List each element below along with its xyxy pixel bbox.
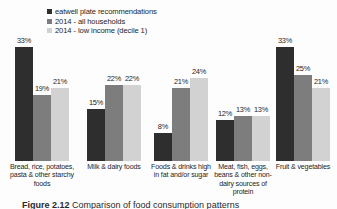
bar-rect[interactable] <box>252 116 270 161</box>
bar-item[interactable]: 21% <box>172 0 190 161</box>
bar-value-label: 33% <box>278 37 292 46</box>
figure-caption-text: Figure 2.12 Comparison of food consumpti… <box>22 200 332 209</box>
bar-value-label: 13% <box>236 106 250 115</box>
bar-rect[interactable] <box>123 85 141 161</box>
bar-rect[interactable] <box>154 133 172 161</box>
bar-rect[interactable] <box>312 88 330 161</box>
legend-swatch-icon <box>47 19 52 24</box>
bar-value-label: 33% <box>17 37 31 46</box>
bar-item[interactable]: 13% <box>252 0 270 161</box>
bar-item[interactable]: 12% <box>216 0 234 161</box>
category-axis-label: Bread, rice, potatoes, pasta & other sta… <box>6 163 78 188</box>
bar-rect[interactable] <box>234 116 252 161</box>
legend-swatch-icon <box>47 28 52 33</box>
bar-rect[interactable] <box>190 78 208 161</box>
legend-item-label: 2014 - all households <box>55 17 125 27</box>
bar-item[interactable]: 33% <box>15 0 33 161</box>
figure-caption-body: Comparison of food consumption patterns <box>72 200 239 209</box>
figure-container: 33%19%21%15%22%22%8%21%24%12%13%13%33%25… <box>0 0 337 209</box>
bar-value-label: 21% <box>314 78 328 87</box>
bar-value-label: 24% <box>192 68 206 77</box>
figure-caption-number: Figure 2.12 <box>22 200 70 209</box>
bar-rect[interactable] <box>87 109 105 161</box>
bar-value-label: 25% <box>296 65 310 74</box>
bar-item[interactable]: 24% <box>190 0 208 161</box>
legend-item[interactable]: 2014 - all households <box>47 17 157 27</box>
bar-rect[interactable] <box>33 95 51 161</box>
bar-item[interactable]: 25% <box>294 0 312 161</box>
bar-value-label: 22% <box>125 75 139 84</box>
bar-value-label: 8% <box>158 123 168 132</box>
bar-rect[interactable] <box>105 85 123 161</box>
bar-rect[interactable] <box>216 120 234 161</box>
bar-value-label: 13% <box>254 106 268 115</box>
legend-item[interactable]: 2014 - low income (decile 1) <box>47 26 157 36</box>
bar-value-label: 19% <box>35 85 49 94</box>
category-axis-label: Meat, fish, eggs, beans & other non-dair… <box>212 163 274 197</box>
bar-group-bars: 33%25%21% <box>272 0 334 161</box>
bar-value-label: 21% <box>174 78 188 87</box>
bar-rect[interactable] <box>15 47 33 161</box>
bar-group: 33%25%21% <box>272 0 334 161</box>
bar-rect[interactable] <box>294 75 312 161</box>
figure-caption: Figure 2.12 Comparison of food consumpti… <box>22 200 332 209</box>
bar-value-label: 21% <box>53 78 67 87</box>
chart-category-axis: Bread, rice, potatoes, pasta & other sta… <box>0 163 337 199</box>
chart-legend: eatwell plate recommendations2014 - all … <box>47 7 157 36</box>
legend-item-label: 2014 - low income (decile 1) <box>55 26 147 36</box>
bar-item[interactable]: 21% <box>312 0 330 161</box>
bar-value-label: 22% <box>107 75 121 84</box>
bar-rect[interactable] <box>276 47 294 161</box>
bar-item[interactable]: 13% <box>234 0 252 161</box>
bar-item[interactable]: 33% <box>276 0 294 161</box>
category-axis-label: Milk & dairy foods <box>81 163 147 171</box>
bar-rect[interactable] <box>51 88 69 161</box>
category-axis-label: Foods & drinks high in fat and/or sugar <box>148 163 214 180</box>
legend-swatch-icon <box>47 9 52 14</box>
bar-rect[interactable] <box>172 88 190 161</box>
legend-item[interactable]: eatwell plate recommendations <box>47 7 157 17</box>
bar-group: 8%21%24% <box>148 0 214 161</box>
category-axis-label: Fruit & vegetables <box>272 163 334 171</box>
bar-group-bars: 8%21%24% <box>148 0 214 161</box>
bar-value-label: 12% <box>218 110 232 119</box>
legend-item-label: eatwell plate recommendations <box>55 7 157 17</box>
bar-value-label: 15% <box>89 99 103 108</box>
bar-group-bars: 12%13%13% <box>212 0 274 161</box>
bar-group: 12%13%13% <box>212 0 274 161</box>
